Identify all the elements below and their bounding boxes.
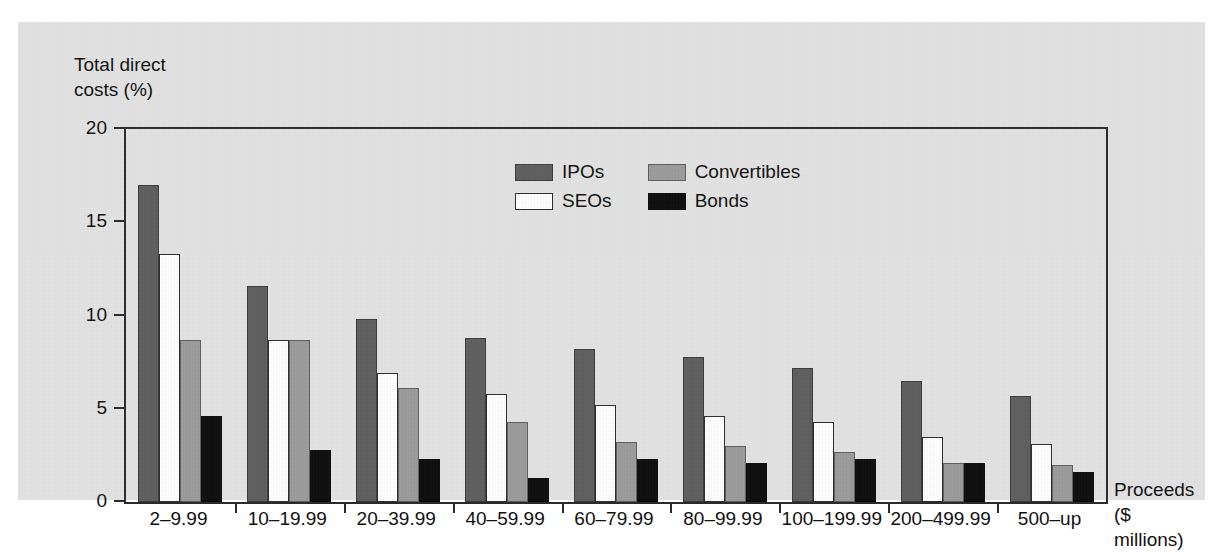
legend-label: Convertibles [695, 161, 801, 183]
x-category-label-6: 100–199.99 [777, 508, 886, 530]
bar-bonds-5 [746, 463, 767, 502]
bar-convertibles-2 [398, 388, 419, 502]
bar-seos-0 [159, 254, 180, 502]
bar-ipos-4 [574, 349, 595, 502]
bar-convertibles-4 [616, 442, 637, 502]
legend-item-ipos: IPOs [515, 161, 612, 183]
legend-swatch-seos-icon [515, 193, 553, 210]
bar-convertibles-5 [725, 446, 746, 502]
bar-ipos-0 [138, 185, 159, 502]
x-category-label-4: 60–79.99 [560, 508, 669, 530]
y-tick-20: 20 [114, 127, 126, 129]
bar-ipos-6 [792, 368, 813, 502]
bar-bonds-1 [310, 450, 331, 502]
bar-seos-1 [268, 340, 289, 502]
bar-seos-8 [1031, 444, 1052, 502]
bar-bonds-8 [1073, 472, 1094, 502]
legend-item-convertibles: Convertibles [648, 161, 801, 183]
bar-seos-7 [922, 437, 943, 502]
x-category-label-8: 500–up [995, 508, 1104, 530]
legend-swatch-bonds-icon [648, 193, 686, 210]
figure-panel: Total direct costs (%) 20151050 2–9.9910… [18, 22, 1205, 500]
bar-convertibles-8 [1052, 465, 1073, 502]
bar-seos-4 [595, 405, 616, 502]
bar-seos-2 [377, 373, 398, 502]
bar-bonds-7 [964, 463, 985, 502]
bar-ipos-7 [901, 381, 922, 502]
x-category-label-3: 40–59.99 [451, 508, 560, 530]
legend-item-bonds: Bonds [648, 190, 801, 212]
bar-convertibles-6 [834, 452, 855, 502]
bar-seos-3 [486, 394, 507, 502]
bar-seos-5 [704, 416, 725, 502]
bar-convertibles-3 [507, 422, 528, 502]
legend-item-seos: SEOs [515, 190, 612, 212]
bar-bonds-3 [528, 478, 549, 502]
bar-ipos-8 [1010, 396, 1031, 502]
y-tick-label: 20 [86, 117, 107, 139]
bar-ipos-1 [247, 286, 268, 502]
x-category-label-7: 200–499.99 [886, 508, 995, 530]
bar-seos-6 [813, 422, 834, 502]
legend-label: Bonds [695, 190, 749, 212]
bar-bonds-2 [419, 459, 440, 502]
y-axis-title: Total direct costs (%) [74, 52, 166, 102]
bar-convertibles-1 [289, 340, 310, 502]
y-tick-5: 5 [114, 407, 126, 409]
bar-convertibles-7 [943, 463, 964, 502]
x-axis-title: Proceeds ($ millions) [1114, 477, 1205, 552]
bar-ipos-5 [683, 357, 704, 502]
y-tick-label: 10 [86, 304, 107, 326]
legend-label: IPOs [562, 161, 604, 183]
bar-ipos-2 [356, 319, 377, 502]
bar-bonds-4 [637, 459, 658, 502]
bar-convertibles-0 [180, 340, 201, 502]
legend-swatch-ipos-icon [515, 164, 553, 181]
legend-swatch-convertibles-icon [648, 164, 686, 181]
legend-label: SEOs [562, 190, 612, 212]
chart-legend: IPOsConvertiblesSEOsBonds [515, 161, 800, 212]
y-tick-10: 10 [114, 314, 126, 316]
x-category-label-5: 80–99.99 [668, 508, 777, 530]
x-category-label-2: 20–39.99 [342, 508, 451, 530]
bar-bonds-6 [855, 459, 876, 502]
y-tick-label: 5 [96, 397, 107, 419]
y-tick-label: 0 [96, 490, 107, 512]
x-category-label-0: 2–9.99 [124, 508, 233, 530]
bar-ipos-3 [465, 338, 486, 502]
bar-bonds-0 [201, 416, 222, 502]
y-tick-label: 15 [86, 210, 107, 232]
x-category-label-1: 10–19.99 [233, 508, 342, 530]
y-tick-0: 0 [114, 500, 126, 502]
y-tick-15: 15 [114, 220, 126, 222]
